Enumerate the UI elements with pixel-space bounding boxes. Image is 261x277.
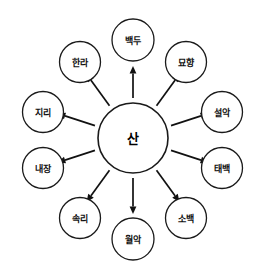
- node-sobaek[interactable]: 소백: [166, 198, 207, 239]
- node-jiri-label: 지리: [35, 107, 51, 118]
- node-worak[interactable]: 월악: [112, 218, 154, 260]
- node-jiri[interactable]: 지리: [23, 92, 64, 133]
- node-myohyang[interactable]: 묘향: [166, 42, 207, 83]
- center-node-group[interactable]: 산: [98, 103, 168, 173]
- center-node-label: 산: [127, 131, 139, 146]
- node-seorak[interactable]: 설악: [202, 92, 243, 133]
- radial-diagram: 백두묘향설악태백소백월악속리내장지리한라 산: [0, 0, 261, 277]
- arrow-naejang: [58, 150, 95, 163]
- node-myohyang-label: 묘향: [178, 57, 195, 68]
- node-halla[interactable]: 한라: [60, 42, 101, 83]
- node-taebaek-label: 태백: [214, 163, 230, 174]
- node-seorak-label: 설악: [214, 107, 231, 118]
- arrow-songni: [87, 170, 110, 202]
- node-sobaek-label: 소백: [178, 213, 194, 224]
- arrow-worak: [130, 178, 137, 214]
- node-worak-label: 월악: [125, 234, 142, 245]
- node-halla-label: 한라: [72, 57, 89, 68]
- node-baekdu-label: 백두: [125, 35, 141, 46]
- node-baekdu[interactable]: 백두: [112, 19, 154, 61]
- arrow-sobaek: [157, 170, 180, 202]
- node-songni-label: 속리: [72, 213, 88, 224]
- arrow-baekdu: [130, 66, 137, 98]
- node-naejang[interactable]: 내장: [23, 148, 64, 189]
- radial-diagram-canvas: 백두묘향설악태백소백월악속리내장지리한라 산: [0, 0, 261, 277]
- node-songni[interactable]: 속리: [60, 198, 101, 239]
- node-taebaek[interactable]: 태백: [202, 148, 243, 189]
- node-naejang-label: 내장: [35, 163, 52, 174]
